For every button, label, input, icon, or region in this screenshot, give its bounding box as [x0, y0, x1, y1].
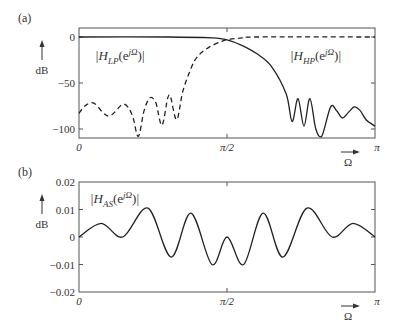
y-axis-unit-a: dB — [36, 64, 49, 76]
x-axis-arrow-icon — [353, 304, 360, 309]
x-tick-label: 0 — [76, 141, 82, 153]
panel-b-label: (b) — [18, 165, 32, 179]
x-tick-label: π — [374, 295, 380, 307]
y-tick-label: 0 — [70, 231, 76, 243]
y-axis-arrow-icon — [40, 194, 45, 214]
y-tick-label: −0.01 — [50, 259, 75, 271]
x-axis-arrow-icon — [353, 150, 360, 155]
x-tick-label: π — [374, 141, 380, 153]
y-tick-label: −0.02 — [50, 286, 75, 298]
x-tick-label: 0 — [76, 295, 82, 307]
y-tick-label: −50 — [58, 77, 76, 89]
y-tick-label: 0.01 — [56, 204, 75, 216]
series-label: |HLP(ejΩ)| — [95, 47, 145, 66]
svg-text:Ω: Ω — [344, 310, 352, 322]
series-labels-a: |HLP(ejΩ)||HHP(ejΩ)| — [95, 47, 341, 66]
series-label: |HHP(ejΩ)| — [290, 47, 341, 66]
series-labels-b: |HAS(ejΩ)| — [90, 190, 139, 209]
series-label: |HAS(ejΩ)| — [90, 190, 139, 209]
y-tick-label: 0 — [70, 31, 76, 43]
curves-b — [79, 208, 375, 265]
y-axis-unit-b: dB — [36, 218, 49, 230]
y-axis-arrow-icon — [40, 40, 45, 60]
panel-b: (b) dB 0.020.010−0.01−0.020π/2π |HAS(ejΩ… — [18, 165, 380, 307]
y-tick-label: 0.02 — [56, 176, 75, 188]
plot-frame-a — [79, 28, 375, 138]
series-line-solid — [79, 208, 375, 265]
y-tick-label: −100 — [52, 123, 75, 135]
x-axis-label-a: Ω — [341, 150, 360, 169]
x-tick-label: π/2 — [220, 141, 235, 153]
panel-a: (a) dB 0−50−1000π/2π |HLP(ejΩ)||HHP(ejΩ)… — [18, 11, 380, 153]
svg-text:Ω: Ω — [344, 156, 352, 168]
panel-a-label: (a) — [18, 11, 31, 25]
figure: (a) dB 0−50−1000π/2π |HLP(ejΩ)||HHP(ejΩ)… — [0, 0, 395, 332]
x-tick-label: π/2 — [220, 295, 235, 307]
x-axis-label-b: Ω — [341, 304, 360, 323]
